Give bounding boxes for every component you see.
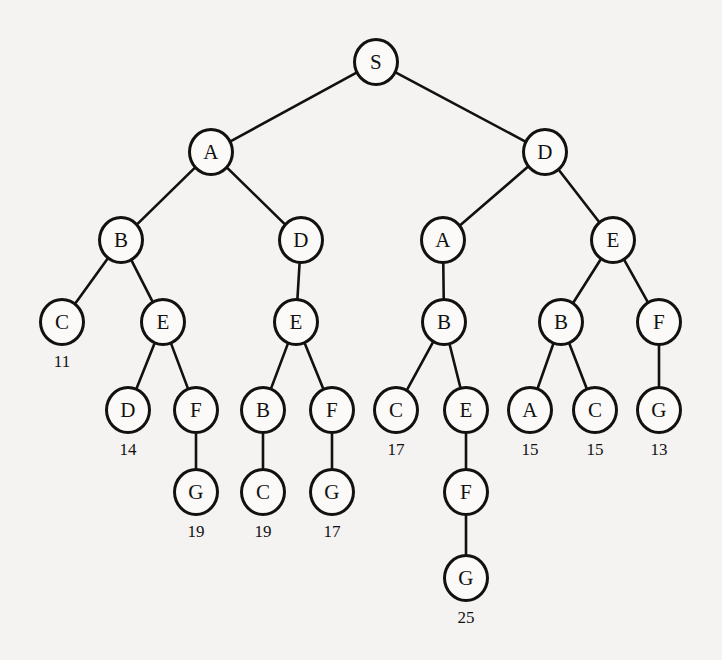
tree-node-c[interactable]: C [373,386,419,434]
tree-node-cost: 19 [166,523,226,540]
tree-node-label: C [55,311,69,332]
tree-node-f[interactable]: F [309,386,355,434]
tree-edge [407,343,432,389]
tree-edge [396,73,524,141]
tree-node-b[interactable]: B [421,298,467,346]
tree-node-label: C [588,399,602,420]
tree-node-label: F [460,481,472,502]
tree-node-g[interactable]: G [173,468,219,516]
tree-node-cost: 15 [565,441,625,458]
tree-node-cost: 13 [629,441,689,458]
tree-node-label: A [203,141,218,162]
tree-edge [231,73,355,141]
tree-node-d[interactable]: D [278,216,324,264]
tree-node-label: C [389,399,403,420]
tree-node-label: D [120,399,135,420]
tree-node-b[interactable]: B [98,216,144,264]
tree-node-cost: 15 [500,441,560,458]
tree-node-label: G [458,567,473,588]
tree-node-cost: 11 [32,353,92,370]
tree-node-label: F [653,311,665,332]
tree-edge [538,345,553,388]
tree-edge [271,344,287,387]
tree-node-cost: 14 [98,441,158,458]
tree-node-cost: 17 [366,441,426,458]
tree-node-b[interactable]: B [538,298,584,346]
tree-node-d[interactable]: D [105,386,151,434]
tree-node-s[interactable]: S [353,38,399,86]
tree-edge [574,260,601,302]
tree-node-f[interactable]: F [173,386,219,434]
tree-node-label: B [554,311,568,332]
tree-node-label: E [156,311,169,332]
tree-node-label: F [190,399,202,420]
tree-node-g[interactable]: G [443,554,489,602]
tree-edge [450,345,460,387]
tree-node-label: S [370,51,382,72]
tree-edge [228,168,284,223]
tree-node-a[interactable]: A [420,216,466,264]
tree-node-f[interactable]: F [636,298,682,346]
tree-node-a[interactable]: A [188,128,234,176]
tree-node-label: E [289,311,302,332]
tree-node-e[interactable]: E [443,386,489,434]
tree-edge [570,344,587,387]
search-tree-diagram: SADBDAEC11EEBBFD14FBFC17EA15C15G13G19C19… [0,0,722,660]
tree-edge [171,344,187,387]
tree-edge [559,171,598,222]
tree-node-c[interactable]: C [39,298,85,346]
tree-edge [461,167,528,224]
tree-node-label: G [324,481,339,502]
tree-node-e[interactable]: E [590,216,636,264]
tree-node-label: A [522,399,537,420]
tree-node-label: G [651,399,666,420]
tree-edge [76,259,107,303]
tree-edge [137,344,154,388]
tree-node-label: B [437,311,451,332]
tree-node-cost: 25 [436,609,496,626]
tree-node-g[interactable]: G [309,468,355,516]
tree-node-c[interactable]: C [240,468,286,516]
tree-node-c[interactable]: C [572,386,618,434]
tree-node-label: F [326,399,338,420]
tree-node-d[interactable]: D [522,128,568,176]
tree-node-label: A [435,229,450,250]
tree-edge [297,264,299,298]
tree-node-a[interactable]: A [507,386,553,434]
tree-node-label: E [606,229,619,250]
tree-node-f[interactable]: F [443,468,489,516]
tree-node-label: E [459,399,472,420]
tree-edge [138,168,194,223]
tree-node-label: C [256,481,270,502]
tree-edges-layer [0,0,722,660]
tree-node-label: B [256,399,270,420]
tree-node-e[interactable]: E [273,298,319,346]
tree-node-label: G [188,481,203,502]
tree-node-label: B [114,229,128,250]
tree-node-b[interactable]: B [240,386,286,434]
tree-node-cost: 19 [233,523,293,540]
tree-node-label: D [537,141,552,162]
tree-node-label: D [293,229,308,250]
tree-node-e[interactable]: E [140,298,186,346]
tree-edge [132,261,152,301]
tree-node-cost: 17 [302,523,362,540]
tree-node-g[interactable]: G [636,386,682,434]
tree-edge [625,261,648,302]
tree-edge [305,344,323,388]
